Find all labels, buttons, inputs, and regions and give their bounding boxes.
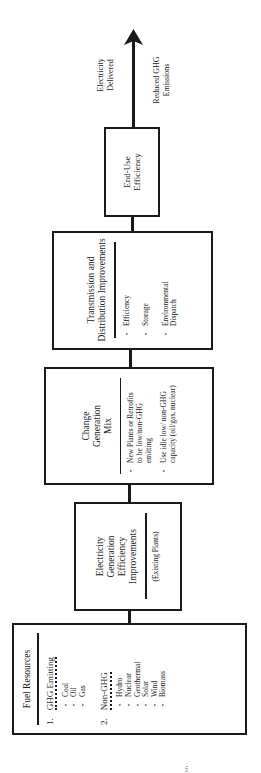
generation-mix-list: New Plants or Retrofits to be low/non-GH… [127, 379, 177, 473]
transmission-list: Efficiency Storage Environmental Dispatc… [123, 243, 179, 336]
non-ghg-fuel-list: Hydro Nuclear Geothermal Solar Wind Biom… [116, 631, 168, 707]
list-item: Biomass [159, 631, 168, 707]
group-heading: Non-GHG [99, 672, 112, 710]
group-number: 1. [45, 718, 55, 725]
group-heading: GHG Emitting [45, 657, 58, 710]
page-number: 10 [184, 766, 188, 773]
list-item: Storage [142, 243, 151, 336]
ghg-fuel-list: Coal Oil Gas [62, 631, 88, 707]
box-title: Change Generation Mix [81, 396, 114, 456]
connector-line [128, 611, 131, 623]
divider [145, 514, 147, 600]
box-title: End-Use Efficiency [122, 144, 143, 200]
arrow-head-icon [124, 29, 143, 45]
connector-line [129, 350, 132, 367]
box-end-use-efficiency: End-Use Efficiency [104, 127, 160, 217]
box-title: Fuel Resources [22, 649, 33, 709]
group-number: 2. [99, 718, 109, 725]
output-arrow-shaft [132, 37, 135, 127]
box-title: Electricity Generation Efficiency Improv… [95, 522, 139, 592]
divider [120, 378, 122, 474]
divider [37, 633, 39, 725]
group-ghg-emitting: 1.GHG Emitting Coal Oil Gas [45, 631, 88, 725]
list-item: Use idle low/ non-GHG capacity (oil/gas,… [160, 373, 177, 473]
box-transmission-distribution: Transmission and Distribution Improvemen… [52, 231, 213, 350]
reduced-ghg-emissions-label: Reduced GHG Emissions [152, 51, 171, 109]
list-item: Efficiency [123, 243, 132, 336]
box-fuel-resources: Fuel Resources 1.GHG Emitting Coal Oil G… [12, 623, 247, 735]
connector-line [131, 217, 134, 231]
connector-line [128, 485, 131, 502]
electricity-delivered-label: Electricity Delivered [96, 45, 115, 105]
box-note: (Existing Plants) [152, 510, 161, 603]
divider [114, 243, 116, 339]
box-change-generation-mix: Change Generation Mix New Plants or Retr… [44, 367, 214, 485]
list-item: Gas [79, 631, 88, 707]
list-item: Environmental Dispatch [162, 270, 179, 336]
box-generation-efficiency: Electricity Generation Efficiency Improv… [74, 502, 182, 611]
group-non-ghg: 2.Non-GHG Hydro Nuclear Geothermal Solar… [99, 631, 168, 725]
box-title: Transmission and Distribution Improvemen… [86, 238, 108, 342]
list-item: New Plants or Retrofits to be low/non-GH… [127, 391, 153, 473]
